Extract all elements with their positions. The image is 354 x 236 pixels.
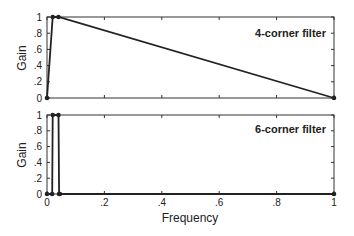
y-tick-label: .4 [34,60,43,71]
data-point [45,192,50,197]
y-tick-label: .6 [34,44,43,55]
top-panel-4-corner: 0.2.4.6.81 [34,12,337,104]
panel-title-top: 4-corner filter [255,27,327,39]
x-tick-label: .2 [100,197,109,208]
data-point [50,113,55,118]
y-tick-label: .8 [34,125,43,136]
x-tick-label: .8 [272,197,281,208]
data-point [58,192,63,197]
x-axis-label: Frequency [162,211,219,225]
y-tick-label: .8 [34,28,43,39]
data-point [45,96,50,101]
y-tick-label: 1 [36,12,42,23]
x-tick-label: .4 [158,197,167,208]
y-tick-label: 0 [36,93,42,104]
y-axis-label-bottom: Gain [15,142,29,167]
y-tick-label: .2 [34,76,43,87]
data-point [332,96,337,101]
data-point [50,15,55,20]
data-point [56,113,61,118]
y-tick-label: 0 [36,189,42,200]
y-axis-label-top: Gain [15,45,29,70]
x-tick-label: .6 [215,197,224,208]
data-point [50,192,55,197]
filter-gain-chart: 0.2.4.6.81 0.2.4.6.810.2.4.6.81 4-corner… [0,0,354,236]
data-point [56,15,61,20]
y-tick-label: .6 [34,141,43,152]
data-point [332,192,337,197]
y-tick-label: .4 [34,157,43,168]
x-tick-label: 0 [44,197,50,208]
x-tick-label: 1 [331,197,337,208]
panel-title-bottom: 6-corner filter [255,123,327,135]
y-tick-label: 1 [36,110,42,121]
y-tick-label: .2 [34,173,43,184]
